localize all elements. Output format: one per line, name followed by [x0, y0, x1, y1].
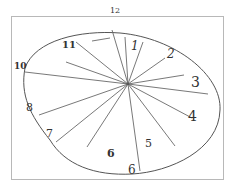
clock-number-10: 10 — [14, 62, 27, 71]
clock-number-1: 1 — [131, 40, 139, 52]
clock-number-2: 2 — [167, 48, 175, 60]
clock-number-11: 11 — [62, 40, 76, 50]
clock-number-8: 8 — [26, 102, 33, 113]
clock-number-6-bottom: 6 — [128, 164, 136, 176]
clock-number-4: 4 — [188, 109, 197, 123]
clock-spokes — [25, 30, 208, 171]
clock-number-5: 5 — [145, 138, 152, 149]
clock-number-12: 12 — [110, 7, 120, 15]
clock-number-7: 7 — [46, 128, 53, 139]
clock-number-6-scribble: 6 — [107, 148, 115, 159]
clock-drawing — [0, 0, 233, 188]
clock-outline — [24, 32, 220, 174]
clock-number-3: 3 — [191, 75, 200, 89]
